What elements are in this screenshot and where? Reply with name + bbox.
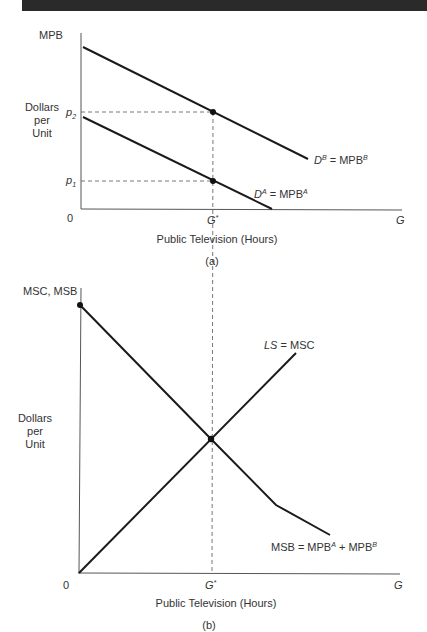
panel-b-x-axis-title: Public Television (Hours) xyxy=(156,597,277,609)
demand-curve-b-label: DB = MPBB xyxy=(314,154,368,166)
panel-b: MSC, MSB Dollars per Unit LS = MSC MSB =… xyxy=(18,285,403,631)
point-b-at-gstar xyxy=(210,109,216,115)
panel-b-gstar-label: G* xyxy=(205,579,217,591)
panel-a-y-axis-label: MPB xyxy=(39,29,63,41)
msb-curve-label: MSB = MPBA + MPBB xyxy=(271,541,377,553)
panel-b-x-axis xyxy=(78,573,400,574)
panel-b-y-axis xyxy=(79,288,81,573)
panel-a-caption: (a) xyxy=(205,255,218,267)
point-a-at-gstar xyxy=(210,178,216,184)
panel-b-y-side-label-3: Unit xyxy=(25,438,45,450)
panel-b-caption: (b) xyxy=(202,619,215,631)
panel-b-y-side-label-2: per xyxy=(27,425,43,437)
equilibrium-point xyxy=(208,436,214,442)
demand-curve-b xyxy=(83,47,308,159)
panel-a-x-end-label: G xyxy=(396,214,405,226)
supply-curve-msc xyxy=(79,353,296,573)
panel-a-y-side-label-2: per xyxy=(34,114,50,126)
panel-a-y-side-label-1: Dollars xyxy=(25,101,60,113)
panel-b-origin-label: 0 xyxy=(63,579,69,591)
demand-curve-a-label: DA = MPBA xyxy=(254,188,308,200)
panel-a-gstar-label: G* xyxy=(207,214,219,226)
panel-a-x-axis xyxy=(81,209,402,210)
supply-curve-label: LS = MSC xyxy=(264,339,315,351)
panel-a-x-axis-title: Public Television (Hours) xyxy=(157,233,278,245)
p1-label: p1 xyxy=(65,174,76,188)
p2-label: p2 xyxy=(65,106,76,120)
demand-curve-a xyxy=(83,117,272,209)
panel-b-y-axis-label: MSC, MSB xyxy=(23,285,77,297)
public-good-diagram: MPB Dollars per Unit p2 p1 0 G G* Public… xyxy=(0,0,427,632)
panel-a-origin-label: 0 xyxy=(67,212,73,224)
panel-b-y-side-label-1: Dollars xyxy=(18,412,53,424)
panel-b-x-end-label: G xyxy=(394,579,403,591)
msb-intercept-point xyxy=(77,302,83,308)
panel-a: MPB Dollars per Unit p2 p1 0 G G* Public… xyxy=(25,29,405,573)
panel-a-y-side-label-3: Unit xyxy=(32,127,52,139)
